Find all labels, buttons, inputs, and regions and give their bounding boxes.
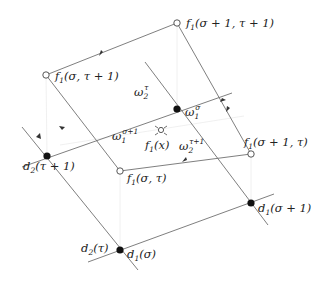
edge-bottom: [120, 154, 251, 171]
label-omega1-sigma: ω1σ: [185, 103, 201, 121]
faint-guides: [46, 23, 251, 250]
filled-point-d1-s1: [247, 199, 254, 206]
label-d1-s1: d1(σ + 1): [258, 201, 311, 217]
label-d2-t: d2(τ): [81, 241, 109, 257]
label-d1-s: d1(σ): [127, 247, 156, 263]
label-omega2-tau1: ω2τ+1: [179, 137, 204, 155]
lattice-diagram: f1(σ + 1, τ + 1) f1(σ, τ + 1) f1(σ + 1, …: [0, 0, 318, 288]
open-point-f1-s1-t: [248, 151, 254, 157]
label-d2-t1: d2(τ + 1): [23, 159, 75, 175]
edge-left: [46, 75, 120, 171]
label-omega1-sigma1: ω1σ+1: [112, 127, 138, 145]
label-f1-s1-t: f1(σ + 1, τ): [243, 135, 308, 151]
points: [43, 20, 255, 254]
point-labels: f1(σ + 1, τ + 1) f1(σ, τ + 1) f1(σ + 1, …: [23, 16, 311, 263]
label-f1-s-t: f1(σ, τ): [126, 171, 167, 187]
open-point-f1-s1-t1: [174, 20, 180, 26]
edge-top: [46, 23, 177, 75]
open-point-f1-x: [158, 127, 163, 132]
filled-point-omega1-sigma: [173, 105, 180, 112]
label-f1-x: f1(x): [144, 138, 170, 154]
label-omega2-tau: ω2τ: [134, 83, 149, 101]
arrow-icon: [182, 157, 187, 162]
open-point-f1-s-t: [117, 168, 123, 174]
filled-point-d1-s: [116, 246, 123, 253]
arrow-icon: [226, 106, 230, 112]
arrow-icon: [59, 126, 65, 130]
line-d2-tau: [88, 194, 274, 262]
open-point-f1-s-t1: [43, 72, 49, 78]
label-f1-s1-t1: f1(σ + 1, τ + 1): [185, 16, 274, 32]
arrow-icon: [36, 133, 41, 139]
label-f1-s-t1: f1(σ, τ + 1): [54, 69, 119, 85]
edge-right: [177, 23, 251, 154]
